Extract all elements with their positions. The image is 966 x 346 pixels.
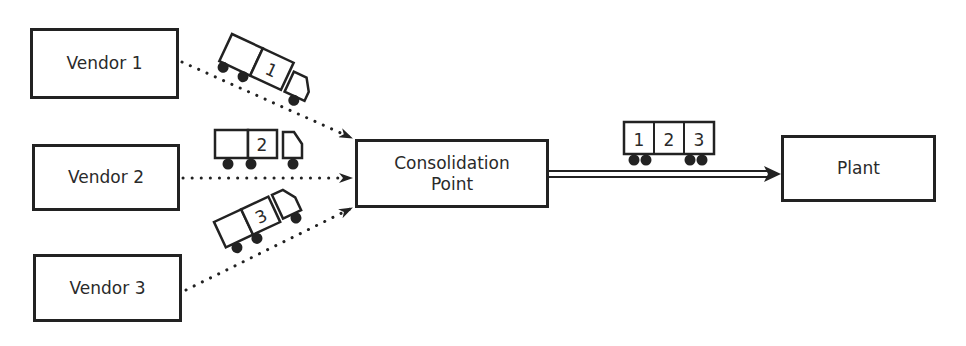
consolidation-point-node: Consolidation Point [355, 139, 549, 208]
vendor-1-node: Vendor 1 [30, 28, 179, 99]
vendor-2-label: Vendor 2 [68, 167, 144, 188]
railcar-compartment-3: 3 [694, 130, 705, 150]
diagram-canvas: 1 2 3 [0, 0, 966, 346]
vendor-3-node: Vendor 3 [33, 254, 182, 322]
railcar-compartment-2: 2 [664, 130, 675, 150]
vendor-2-node: Vendor 2 [32, 144, 180, 211]
consolidation-label-line2: Point [431, 174, 473, 195]
plant-label: Plant [837, 158, 880, 179]
vendor-3-label: Vendor 3 [70, 278, 146, 299]
truck-2-icon: 2 [215, 130, 302, 170]
consolidation-label-line1: Consolidation [394, 153, 510, 174]
railcar-icon: 1 2 3 [624, 122, 714, 166]
edge-consolidation-to-plant [549, 166, 781, 182]
truck-3-icon: 3 [214, 187, 306, 257]
vendor-1-label: Vendor 1 [67, 53, 143, 74]
plant-node: Plant [781, 135, 936, 202]
railcar-compartment-1: 1 [634, 130, 645, 150]
truck-2-number: 2 [257, 135, 268, 155]
